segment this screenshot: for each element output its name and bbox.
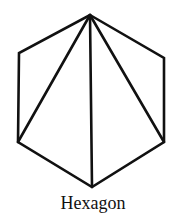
diagonal-top-to-bottom: [90, 15, 92, 187]
diagram-caption: Hexagon: [0, 193, 175, 213]
hexagon-diagram: [0, 0, 175, 214]
diagonal-top-to-lower-right: [90, 15, 164, 142]
